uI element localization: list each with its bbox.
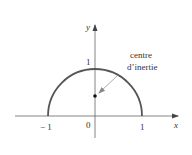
semicircle-diagram: y x 0 − 1 1 1 centre d’inertie [0,0,192,155]
annotation-arrow [99,75,118,93]
y-tick-label-1: 1 [86,57,91,67]
annotation-line-1: centre [130,50,152,60]
x-tick-label-1: 1 [140,122,145,132]
origin-label: 0 [86,120,91,130]
centroid-point [93,94,97,98]
annotation-line-2: d’inertie [127,62,158,72]
y-axis-label: y [85,22,90,32]
x-tick-label-neg1: − 1 [40,122,52,132]
x-axis-label: x [173,120,178,130]
